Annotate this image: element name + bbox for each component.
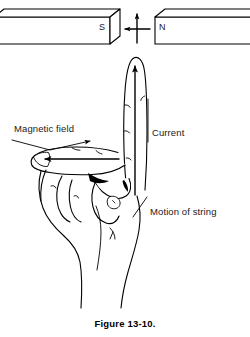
magnetic-field-label: Magnetic field xyxy=(14,124,74,134)
middle-finger-shape xyxy=(88,173,131,224)
folded-fingers-shape xyxy=(41,170,81,222)
figure-illustration xyxy=(0,0,250,337)
current-label: Current xyxy=(152,128,184,138)
physics-figure-13-10: S N Magnetic field Current Motion of str… xyxy=(0,0,250,337)
south-pole-label: S xyxy=(99,22,105,32)
gap-arrow-group xyxy=(125,14,150,43)
north-pole-label: N xyxy=(159,22,166,32)
figure-caption: Figure 13-10. xyxy=(0,318,250,329)
motion-of-string-label: Motion of string xyxy=(150,207,217,217)
north-pole-magnet-shape xyxy=(155,9,250,44)
